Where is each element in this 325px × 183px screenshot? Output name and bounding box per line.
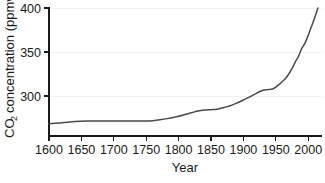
y-axis-title-main: concentration (ppmv) [2,0,17,113]
co2-series-line [49,8,318,124]
x-tick-label-1950: 1950 [262,143,290,157]
x-tick-label-1700: 1700 [100,143,128,157]
x-tick-label-1600: 1600 [35,143,63,157]
co2-concentration-chart-figure: 400 350 300 1600 1650 1700 1750 1800 185… [0,0,325,183]
y-tick-label-350: 350 [20,46,41,60]
axis-spines [49,7,322,136]
x-tick-labels: 1600 1650 1700 1750 1800 1850 1900 1950 … [35,143,322,157]
y-tick-label-300: 300 [20,90,41,104]
x-tickmarks [49,136,308,141]
x-tick-label-1800: 1800 [165,143,193,157]
y-axis-title-subscript: 2 [9,116,19,121]
y-axis-title: CO 2 concentration (ppmv) [2,0,19,138]
x-axis-title: Year [172,160,199,175]
x-tick-label-2000: 2000 [294,143,322,157]
x-tick-label-1650: 1650 [67,143,95,157]
y-tick-label-400: 400 [20,2,41,16]
x-tick-label-1900: 1900 [229,143,257,157]
caption-sliver [3,178,323,183]
y-tick-labels: 400 350 300 [20,2,41,104]
x-tick-label-1750: 1750 [132,143,160,157]
y-tickmarks [44,8,49,96]
chart-canvas: 400 350 300 1600 1650 1700 1750 1800 185… [0,0,325,183]
x-tick-label-1850: 1850 [197,143,225,157]
